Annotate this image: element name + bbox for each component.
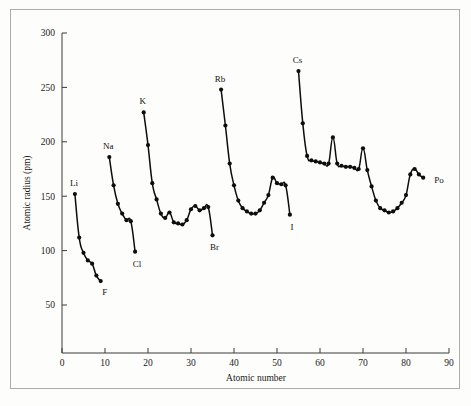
x-tick-label: 10 [100, 358, 110, 368]
y-tick-label: 50 [46, 300, 56, 310]
data-point [163, 216, 167, 220]
data-point [387, 210, 391, 214]
data-point [262, 201, 266, 205]
element-label-Na: Na [103, 141, 114, 151]
x-tick-label: 50 [272, 358, 282, 368]
data-point [271, 176, 275, 180]
data-point [314, 159, 318, 163]
series-line-period-4 [144, 112, 213, 235]
data-point [361, 146, 365, 150]
x-axis-title: Atomic number [226, 373, 287, 383]
series-line-period-6 [299, 71, 424, 213]
data-point [193, 204, 197, 208]
data-point [167, 210, 171, 214]
data-point [365, 168, 369, 172]
data-point [241, 206, 245, 210]
data-point [107, 155, 111, 159]
data-point [400, 201, 404, 205]
element-label-Br: Br [210, 242, 219, 252]
data-point [258, 208, 262, 212]
element-label-Po: Po [434, 175, 444, 185]
data-point [331, 135, 335, 139]
element-labels: LiFNaClKBrRbICsPo [70, 55, 444, 297]
figure-root: 50100150200250300 Atomic radius (pm) 010… [0, 0, 471, 406]
data-point [219, 87, 223, 91]
data-point [404, 193, 408, 197]
x-tick-label: 60 [315, 358, 325, 368]
y-tick-label: 250 [41, 83, 56, 93]
y-tick-label: 300 [41, 28, 56, 38]
element-label-I: I [290, 222, 293, 232]
data-point [202, 206, 206, 210]
data-point [296, 69, 300, 73]
data-point [77, 235, 81, 239]
x-tick-labels: 0102030405060708090 [60, 358, 454, 368]
data-point [339, 164, 343, 168]
data-point [146, 143, 150, 147]
data-point [133, 250, 137, 254]
y-tick-labels: 50100150200250300 [41, 28, 56, 310]
data-point [116, 202, 120, 206]
data-point [288, 213, 292, 217]
data-point [309, 158, 313, 162]
data-point [86, 258, 90, 262]
data-point [198, 208, 202, 212]
x-axis-group: 0102030405060708090 Atomic number [60, 348, 454, 383]
data-point [335, 161, 339, 165]
data-point [253, 212, 257, 216]
data-point [228, 161, 232, 165]
x-tick-label: 20 [143, 358, 153, 368]
data-point [206, 205, 210, 209]
x-tick-label: 40 [229, 358, 239, 368]
data-point [421, 176, 425, 180]
series-points [73, 69, 426, 283]
data-point [81, 251, 85, 255]
data-point [284, 183, 288, 187]
data-point [413, 167, 417, 171]
x-tick-label: 30 [186, 358, 196, 368]
element-label-F: F [102, 287, 107, 297]
data-point [210, 233, 214, 237]
data-point [232, 183, 236, 187]
data-point [378, 206, 382, 210]
data-point [189, 207, 193, 211]
data-point [275, 181, 279, 185]
data-point [155, 197, 159, 201]
y-tick-label: 150 [41, 192, 56, 202]
y-axis-title: Atomic radius (pm) [22, 156, 33, 231]
data-point [249, 212, 253, 216]
x-tick-label: 0 [60, 358, 65, 368]
data-point [142, 110, 146, 114]
y-axis-group: 50100150200250300 Atomic radius (pm) [22, 28, 67, 353]
data-point [245, 209, 249, 213]
data-point [322, 161, 326, 165]
y-tick-label: 200 [41, 137, 56, 147]
data-point [382, 208, 386, 212]
data-point [129, 219, 133, 223]
data-point [279, 182, 283, 186]
data-point [159, 212, 163, 216]
x-tick-label: 90 [444, 358, 454, 368]
data-point [357, 167, 361, 171]
element-label-K: K [139, 96, 146, 106]
data-point [352, 166, 356, 170]
data-point [391, 209, 395, 213]
element-label-Rb: Rb [215, 74, 226, 84]
element-label-Cl: Cl [133, 259, 142, 269]
data-point [236, 198, 240, 202]
data-point [327, 161, 331, 165]
data-point [73, 192, 77, 196]
data-point [176, 221, 180, 225]
atomic-radius-chart: 50100150200250300 Atomic radius (pm) 010… [0, 0, 471, 406]
data-point [417, 172, 421, 176]
data-point [90, 262, 94, 266]
x-tick-marks [62, 348, 449, 353]
data-point [150, 181, 154, 185]
x-tick-label: 70 [358, 358, 368, 368]
data-point [124, 218, 128, 222]
data-point [305, 154, 309, 158]
series-lines [75, 71, 423, 281]
data-point [185, 218, 189, 222]
data-point [395, 206, 399, 210]
data-point [180, 222, 184, 226]
